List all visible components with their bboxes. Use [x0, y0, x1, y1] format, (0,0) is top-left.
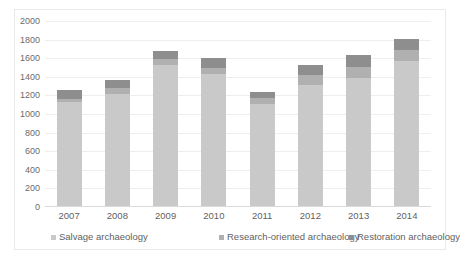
bar-stack-2008[interactable]	[105, 80, 130, 207]
bar-segment[interactable]	[201, 74, 226, 207]
bar-segment[interactable]	[394, 50, 419, 61]
bar-segment[interactable]	[298, 65, 323, 76]
legend-swatch-icon	[349, 235, 354, 240]
bar-stack-2013[interactable]	[346, 55, 371, 207]
bar-segment[interactable]	[105, 80, 130, 88]
y-axis-tick-label: 2000	[20, 17, 40, 26]
y-axis-tick-label: 600	[25, 147, 40, 156]
x-axis-tick-label: 2014	[396, 210, 417, 221]
bar-stack-2007[interactable]	[57, 90, 82, 207]
bar-stack-2009[interactable]	[153, 51, 178, 207]
x-axis-tick-label: 2010	[203, 210, 224, 221]
x-axis-tick-label: 2007	[59, 210, 80, 221]
chart-legend: Salvage archaeologyResearch-oriented arc…	[29, 232, 433, 246]
bar-segment[interactable]	[201, 58, 226, 68]
bar-stack-2014[interactable]	[394, 39, 419, 207]
bar-segment[interactable]	[105, 88, 130, 95]
legend-label: Research-oriented archaeology	[227, 232, 360, 242]
bar-segment[interactable]	[105, 94, 130, 207]
legend-swatch-icon	[51, 235, 56, 240]
chart-card: 0200400600800100012001400160018002000 20…	[14, 9, 446, 250]
bar-segment[interactable]	[346, 67, 371, 78]
x-axis-tick-label: 2008	[107, 210, 128, 221]
bar-segment[interactable]	[250, 104, 275, 207]
bar-stack-2011[interactable]	[250, 92, 275, 207]
y-axis-tick-label: 1400	[20, 72, 40, 81]
bar-segment[interactable]	[153, 51, 178, 59]
legend-item[interactable]: Salvage archaeology	[51, 232, 148, 242]
bar-series-container	[45, 21, 431, 207]
x-axis-tick-label: 2013	[348, 210, 369, 221]
x-axis-tick-label: 2012	[300, 210, 321, 221]
y-axis-tick-label: 1000	[20, 110, 40, 119]
bar-stack-2010[interactable]	[201, 58, 226, 207]
y-axis-tick-label: 0	[35, 203, 40, 212]
bar-segment[interactable]	[57, 90, 82, 98]
bar-segment[interactable]	[394, 61, 419, 207]
x-axis-tick-labels: 20072008200920102011201220132014	[45, 210, 431, 226]
bar-segment[interactable]	[346, 55, 371, 67]
y-axis-tick-label: 1800	[20, 35, 40, 44]
bar-segment[interactable]	[346, 78, 371, 207]
legend-item[interactable]: Research-oriented archaeology	[219, 232, 360, 242]
x-axis-tick-label: 2011	[252, 210, 272, 221]
bar-segment[interactable]	[394, 39, 419, 51]
bar-stack-2012[interactable]	[298, 65, 323, 207]
bar-segment[interactable]	[298, 75, 323, 85]
y-axis-tick-label: 800	[25, 128, 40, 137]
bar-segment[interactable]	[153, 65, 178, 207]
bar-segment[interactable]	[57, 102, 82, 207]
y-axis-tick-label: 400	[25, 165, 40, 174]
legend-label: Salvage archaeology	[59, 232, 148, 242]
y-axis-tick-label: 200	[25, 184, 40, 193]
y-axis-tick-label: 1200	[20, 91, 40, 100]
bar-segment[interactable]	[298, 85, 323, 207]
y-axis-tick-label: 1600	[20, 54, 40, 63]
plot-area: 0200400600800100012001400160018002000	[45, 21, 431, 207]
legend-label: Restoration archaeology	[357, 232, 460, 242]
x-axis-line	[45, 206, 431, 207]
legend-swatch-icon	[219, 235, 224, 240]
legend-item[interactable]: Restoration archaeology	[349, 232, 460, 242]
x-axis-tick-label: 2009	[155, 210, 176, 221]
